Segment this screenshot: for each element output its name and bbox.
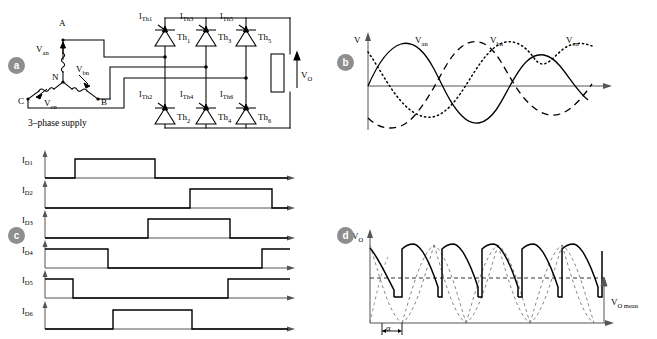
panel-a-badge: a bbox=[8, 57, 25, 74]
coil-b bbox=[72, 88, 87, 92]
ith3-arrow bbox=[204, 26, 209, 32]
junction-leg3 bbox=[244, 76, 248, 80]
pulse-id2 bbox=[45, 189, 288, 208]
pulse-id5 bbox=[45, 279, 290, 298]
van-arrow-head bbox=[61, 42, 66, 48]
panel-b: b V Van Vbn Vcn bbox=[330, 0, 657, 145]
ith5-arrow bbox=[244, 26, 249, 32]
label-th1: Th1 bbox=[177, 32, 190, 44]
node-n-dot bbox=[61, 80, 64, 83]
trace-vbn bbox=[368, 42, 592, 128]
ith6-arrow bbox=[244, 104, 249, 110]
panel-b-y-label: V bbox=[354, 35, 361, 45]
alpha-label: α bbox=[386, 323, 391, 333]
label-ith3: ITh3 bbox=[180, 12, 193, 22]
panel-a-circuit: A B C N Van Vbn Vcn VO Th1 Th3 Th5 Th bbox=[0, 0, 330, 145]
label-trace-vbn: Vbn bbox=[490, 35, 504, 47]
panel-d: d bbox=[330, 145, 657, 339]
node-label-a: A bbox=[59, 18, 66, 28]
pulse-id1 bbox=[45, 159, 288, 178]
node-b-dot bbox=[96, 97, 99, 100]
panel-b-waveforms: V Van Vbn Vcn bbox=[330, 0, 657, 145]
alpha-marker bbox=[382, 323, 402, 335]
panel-c-badge: c bbox=[8, 227, 25, 244]
ith1-arrow bbox=[163, 26, 168, 32]
node-label-b: B bbox=[101, 97, 107, 107]
panel-d-x-arrow bbox=[605, 320, 614, 326]
label-id6: ID6 bbox=[22, 306, 34, 317]
label-ith6: ITh6 bbox=[220, 90, 234, 100]
vo-arrow-head bbox=[294, 52, 300, 60]
label-vbn: Vbn bbox=[76, 64, 90, 76]
label-trace-van: Van bbox=[415, 35, 428, 47]
label-id5: ID5 bbox=[22, 275, 33, 286]
label-id1: ID1 bbox=[22, 155, 33, 166]
load-resistor bbox=[271, 54, 284, 92]
label-th4: Th4 bbox=[218, 112, 232, 124]
panel-d-output-waveform: α VO VO mean bbox=[330, 145, 657, 339]
row-id3: ID3 bbox=[22, 210, 295, 241]
ith2-arrow bbox=[163, 104, 168, 110]
vo-mean-label: VO mean bbox=[611, 297, 639, 309]
panel-b-badge: b bbox=[337, 54, 354, 71]
label-trace-vcn: Vcn bbox=[566, 35, 579, 47]
label-ith4: ITh4 bbox=[180, 90, 194, 100]
trace-vcn bbox=[368, 42, 592, 118]
pulse-id3 bbox=[45, 219, 288, 238]
row-id2: ID2 bbox=[22, 180, 295, 211]
label-th5: Th5 bbox=[258, 32, 271, 44]
node-c-dot bbox=[26, 97, 29, 100]
row-id4: ID4 bbox=[22, 240, 295, 271]
label-ith1: ITh1 bbox=[139, 12, 152, 22]
node-label-n: N bbox=[52, 72, 59, 82]
node-a-dot bbox=[61, 38, 64, 41]
node-label-c: C bbox=[18, 96, 24, 106]
label-ith2: ITh2 bbox=[139, 90, 152, 100]
pulse-id6 bbox=[45, 310, 288, 329]
label-th2: Th2 bbox=[177, 112, 190, 124]
trace-van bbox=[368, 43, 588, 123]
source-branch-c-inner bbox=[54, 82, 63, 89]
feeder-phase-a bbox=[63, 40, 165, 57]
row-id1: ID1 bbox=[22, 150, 295, 181]
label-th3: Th3 bbox=[218, 32, 231, 44]
trace-vo bbox=[370, 244, 602, 297]
label-ith5: ITh5 bbox=[220, 12, 233, 22]
feeder-phase-c bbox=[28, 78, 246, 108]
feeder-phase-b-stub bbox=[98, 67, 114, 99]
vbn-arrow-head bbox=[84, 83, 90, 88]
label-th6: Th6 bbox=[258, 112, 272, 124]
label-id4: ID4 bbox=[22, 245, 34, 256]
label-id2: ID2 bbox=[22, 185, 33, 196]
row-id6: ID6 bbox=[22, 301, 295, 332]
pulse-id4 bbox=[45, 249, 290, 268]
ith4-arrow bbox=[204, 104, 209, 110]
panel-d-y-arrow bbox=[367, 229, 373, 238]
supply-caption: 3–phase supply bbox=[28, 118, 87, 128]
label-vcn: Vcn bbox=[44, 98, 57, 110]
panel-c: c ID1 ID2 bbox=[0, 145, 330, 339]
panel-b-y-arrow bbox=[365, 32, 371, 41]
label-vo: VO bbox=[301, 70, 313, 82]
source-branch-b-outer bbox=[87, 91, 98, 99]
panel-c-current-waveforms: ID1 ID2 ID3 bbox=[0, 145, 330, 339]
label-id3: ID3 bbox=[22, 215, 33, 226]
node-dots bbox=[26, 38, 247, 100]
panel-a: a bbox=[0, 0, 330, 145]
junction-leg1 bbox=[163, 55, 167, 59]
row-id5: ID5 bbox=[22, 270, 295, 301]
panel-d-badge: d bbox=[337, 227, 354, 244]
junction-leg2 bbox=[204, 65, 208, 69]
label-van: Van bbox=[36, 44, 49, 56]
panel-b-x-arrow bbox=[603, 83, 612, 89]
source-branch-b-inner bbox=[63, 82, 72, 89]
